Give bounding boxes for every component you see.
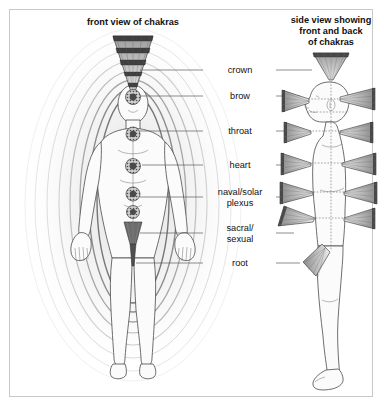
side-throat-funnel-front <box>340 122 373 143</box>
front-heart-chakra <box>126 159 141 174</box>
label-naval-line2: plexus <box>227 198 254 208</box>
side-heart-funnel-front <box>342 153 376 175</box>
title-side-view-line1: side view showing <box>291 15 372 25</box>
side-throat-funnel-back <box>284 122 311 143</box>
chakra-diagram: front view of chakras side view showing … <box>0 0 384 408</box>
front-naval-chakra <box>126 187 140 201</box>
side-naval-funnel-back <box>280 182 313 204</box>
side-profile-figure <box>303 78 358 390</box>
front-throat-chakra <box>126 127 140 141</box>
label-sacral-line1: sacral/ <box>226 223 254 233</box>
title-side-view-line3: of chakras <box>308 37 354 47</box>
side-heart-funnel-back <box>281 153 311 175</box>
label-throat: throat <box>228 126 252 136</box>
label-crown: crown <box>228 65 253 75</box>
label-brow: brow <box>230 91 250 101</box>
side-naval-funnel-front <box>344 182 377 204</box>
front-sacral-chakra <box>127 206 140 219</box>
label-naval-line1: naval/solar <box>218 187 262 197</box>
label-root: root <box>232 258 248 268</box>
title-front-view: front view of chakras <box>87 17 179 27</box>
label-sacral-line2: sexual <box>227 234 254 244</box>
side-brow-funnel-back <box>282 90 309 112</box>
side-crown-funnel <box>313 53 349 80</box>
title-side-view-line2: front and back <box>299 26 363 36</box>
diagram-canvas: front view of chakras side view showing … <box>0 0 384 408</box>
label-heart: heart <box>230 160 251 170</box>
side-sacral-funnel-front <box>344 208 375 229</box>
front-brow-chakra <box>126 90 141 105</box>
side-sacral-funnel-back <box>278 206 315 226</box>
